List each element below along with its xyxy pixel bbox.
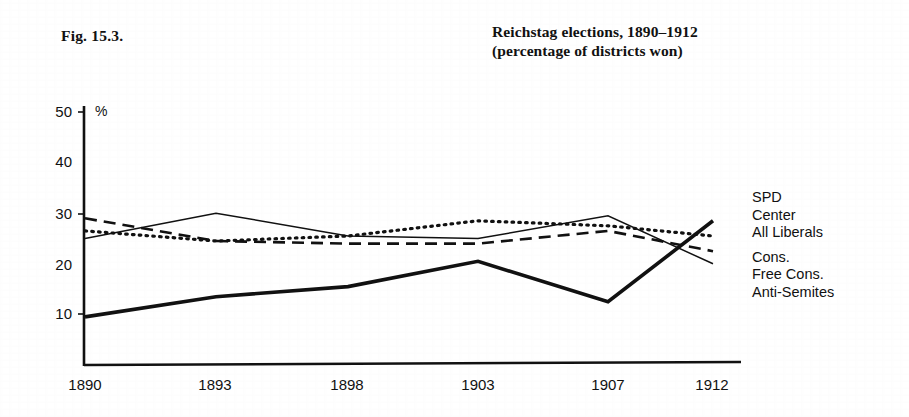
x-tick-label-1898: 1898 [307, 376, 387, 393]
legend-entry-cons: Cons. [752, 249, 834, 267]
chart-series-layer [85, 213, 713, 317]
x-tick-label-1890: 1890 [45, 376, 125, 393]
chart-legend: SPD Center All Liberals Cons. Free Cons.… [752, 189, 834, 301]
legend-entry-spd: SPD [752, 189, 834, 207]
legend-entry-all-liberals: All Liberals [752, 224, 834, 242]
series-line-all-liberals [85, 218, 713, 251]
y-tick-label-30: 30 [28, 205, 72, 222]
y-tick-label-50: 50 [28, 103, 72, 120]
x-tick-label-1893: 1893 [175, 376, 255, 393]
y-tick-label-10: 10 [28, 305, 72, 322]
legend-entry-center: Center [752, 207, 834, 225]
y-axis-unit-label: % [95, 103, 107, 119]
y-tick-label-40: 40 [28, 153, 72, 170]
x-tick-label-1907: 1907 [568, 376, 648, 393]
legend-entry-anti-semites: Anti-Semites [752, 284, 834, 302]
y-tick-label-20: 20 [28, 256, 72, 273]
x-axis-line [84, 362, 741, 365]
series-line-center [85, 221, 713, 241]
x-tick-label-1912: 1912 [672, 376, 752, 393]
x-tick-label-1903: 1903 [438, 376, 518, 393]
legend-entry-free-cons: Free Cons. [752, 266, 834, 284]
